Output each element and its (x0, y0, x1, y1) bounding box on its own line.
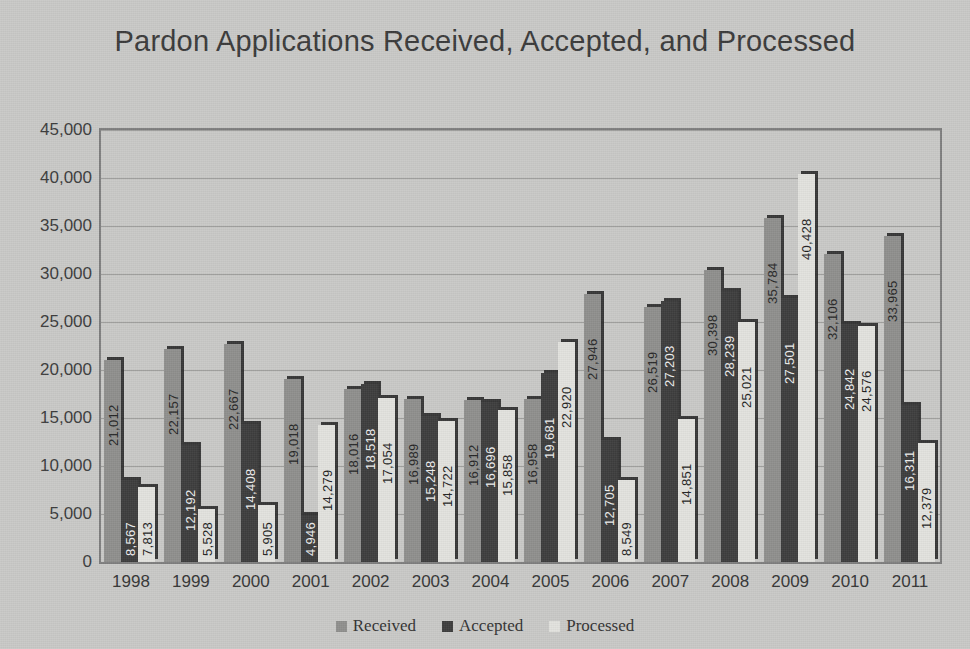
x-axis-tick-label: 2003 (401, 572, 461, 592)
bar-group: 18,01618,51817,054 (341, 130, 401, 562)
bar-value-label: 35,784 (765, 263, 780, 305)
bar-body (558, 342, 575, 562)
bar-accepted-2002[interactable]: 18,518 (361, 384, 378, 562)
bar-processed-2008[interactable]: 25,021 (738, 322, 755, 562)
bar-processed-2007[interactable]: 14,851 (678, 419, 695, 562)
bar-processed-2005[interactable]: 22,920 (558, 342, 575, 562)
bar-body (224, 344, 241, 562)
bar-value-label: 24,842 (842, 368, 857, 410)
bar-value-label: 12,379 (919, 488, 934, 530)
x-axis-tick-label: 2000 (221, 572, 281, 592)
bar-received-2000[interactable]: 22,667 (224, 344, 241, 562)
bar-value-label: 32,106 (825, 298, 840, 340)
bar-accepted-2007[interactable]: 27,203 (661, 301, 678, 562)
chart-legend: ReceivedAcceptedProcessed (0, 616, 970, 636)
bar-accepted-1999[interactable]: 12,192 (181, 445, 198, 562)
legend-item-received[interactable]: Received (336, 616, 416, 636)
bar-body (721, 291, 738, 562)
bar-received-1999[interactable]: 22,157 (164, 349, 181, 562)
bar-value-label: 25,021 (739, 366, 754, 408)
bar-received-2009[interactable]: 35,784 (764, 218, 781, 562)
bar-value-label: 22,667 (225, 389, 240, 431)
bar-received-2006[interactable]: 27,946 (584, 294, 601, 562)
bar-processed-2010[interactable]: 24,576 (858, 326, 875, 562)
bar-received-1998[interactable]: 21,012 (104, 360, 121, 562)
bar-received-2010[interactable]: 32,106 (824, 254, 841, 562)
bar-value-label: 19,681 (542, 418, 557, 460)
y-axis-tick-label: 30,000 (40, 264, 92, 284)
bar-accepted-2000[interactable]: 14,408 (241, 424, 258, 562)
bar-received-2008[interactable]: 30,398 (704, 270, 721, 562)
x-axis-tick-label: 2005 (521, 572, 581, 592)
bar-accepted-2009[interactable]: 27,501 (781, 298, 798, 562)
bar-received-2002[interactable]: 18,016 (344, 389, 361, 562)
x-axis-tick-label: 2002 (341, 572, 401, 592)
bar-processed-2000[interactable]: 5,905 (258, 505, 275, 562)
bar-received-2007[interactable]: 26,519 (644, 307, 661, 562)
bar-received-2004[interactable]: 16,912 (464, 400, 481, 562)
chart-title: Pardon Applications Received, Accepted, … (60, 24, 910, 59)
bar-value-label: 16,958 (525, 444, 540, 486)
bar-accepted-1998[interactable]: 8,567 (121, 480, 138, 562)
x-axis-tick-label: 2007 (640, 572, 700, 592)
bar-value-label: 14,851 (679, 464, 694, 506)
legend-swatch-icon (549, 621, 560, 632)
bar-processed-2004[interactable]: 15,858 (498, 410, 515, 562)
bar-received-2001[interactable]: 19,018 (284, 379, 301, 562)
y-axis-tick-label: 25,000 (40, 312, 92, 332)
bar-processed-2009[interactable]: 40,428 (798, 174, 815, 562)
bar-processed-2011[interactable]: 12,379 (918, 443, 935, 562)
bar-value-label: 4,946 (302, 522, 317, 556)
x-axis-tick-label: 2010 (820, 572, 880, 592)
bar-body (584, 294, 601, 562)
bar-group: 33,96516,31112,379 (880, 130, 940, 562)
bar-accepted-2004[interactable]: 16,696 (481, 402, 498, 562)
bar-processed-2002[interactable]: 17,054 (378, 398, 395, 562)
bar-processed-1999[interactable]: 5,528 (198, 509, 215, 562)
legend-label: Received (353, 616, 416, 636)
bar-value-label: 16,912 (465, 444, 480, 486)
bar-value-label: 28,239 (722, 335, 737, 377)
bar-accepted-2001[interactable]: 4,946 (301, 515, 318, 562)
bar-value-label: 22,920 (559, 386, 574, 428)
y-axis-tick-label: 45,000 (40, 120, 92, 140)
bar-value-label: 18,518 (362, 429, 377, 471)
bar-received-2005[interactable]: 16,958 (524, 399, 541, 562)
bar-accepted-2003[interactable]: 15,248 (421, 416, 438, 562)
bar-received-2003[interactable]: 16,989 (404, 399, 421, 562)
bar-received-2011[interactable]: 33,965 (884, 236, 901, 562)
bar-body (738, 322, 755, 562)
bar-group: 21,0128,5677,813 (101, 130, 161, 562)
bar-accepted-2006[interactable]: 12,705 (601, 440, 618, 562)
x-axis-tick-label: 2009 (760, 572, 820, 592)
legend-item-processed[interactable]: Processed (549, 616, 634, 636)
bar-value-label: 16,989 (405, 443, 420, 485)
bar-value-label: 19,018 (285, 424, 300, 466)
bar-body (841, 324, 858, 562)
legend-item-accepted[interactable]: Accepted (442, 616, 523, 636)
bar-group: 30,39828,23925,021 (700, 130, 760, 562)
bar-group: 22,66714,4085,905 (221, 130, 281, 562)
bar-value-label: 27,203 (662, 345, 677, 387)
bar-body (104, 360, 121, 562)
bar-processed-1998[interactable]: 7,813 (138, 487, 155, 562)
bar-accepted-2005[interactable]: 19,681 (541, 373, 558, 562)
bar-body (781, 298, 798, 562)
bar-accepted-2008[interactable]: 28,239 (721, 291, 738, 562)
bar-value-label: 15,858 (499, 454, 514, 496)
bar-body (344, 389, 361, 562)
bar-processed-2006[interactable]: 8,549 (618, 480, 635, 562)
x-axis-tick-label: 2006 (580, 572, 640, 592)
bar-accepted-2010[interactable]: 24,842 (841, 324, 858, 562)
x-axis-tick-label: 2004 (461, 572, 521, 592)
bar-body (541, 373, 558, 562)
y-axis: 05,00010,00015,00020,00025,00030,00035,0… (0, 128, 92, 564)
bar-group: 19,0184,94614,279 (281, 130, 341, 562)
bar-processed-2003[interactable]: 14,722 (438, 421, 455, 562)
bar-group: 32,10624,84224,576 (820, 130, 880, 562)
bar-group: 27,94612,7058,549 (580, 130, 640, 562)
x-axis-tick-label: 2011 (880, 572, 940, 592)
bar-accepted-2011[interactable]: 16,311 (901, 405, 918, 562)
bar-processed-2001[interactable]: 14,279 (318, 425, 335, 562)
bar-group: 22,15712,1925,528 (161, 130, 221, 562)
